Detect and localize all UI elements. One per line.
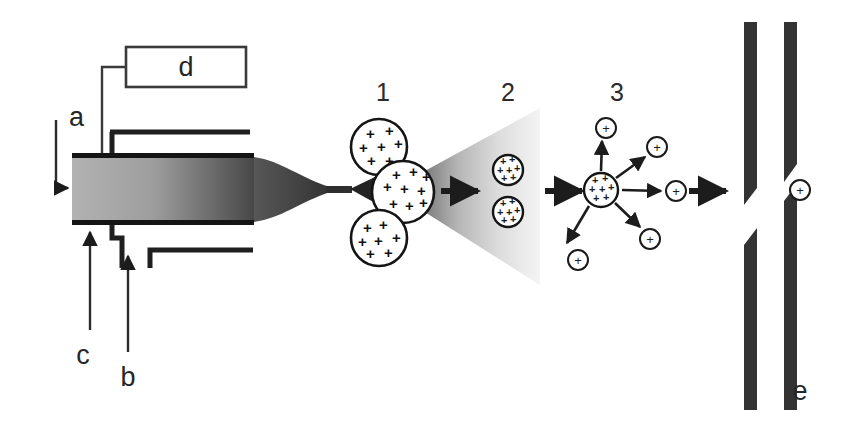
skimmer-electrodes: e: [744, 22, 808, 410]
esi-diagram: d a c b: [0, 0, 845, 431]
transmitted-ion: +: [790, 180, 810, 200]
capillary-body: [72, 157, 254, 221]
svg-text:+: +: [400, 180, 409, 197]
label-e: e: [792, 376, 807, 406]
svg-text:+: +: [653, 140, 661, 155]
fission-arrow-downleft: [567, 206, 589, 243]
power-supply-unit[interactable]: d: [126, 47, 246, 87]
gas-tube-lower-outer: [150, 250, 253, 268]
fission-arrow-up: [601, 141, 602, 171]
label-d: d: [178, 52, 193, 82]
label-c: c: [76, 340, 90, 370]
svg-text:+: +: [383, 178, 392, 195]
capillary-wall-top: [72, 153, 254, 158]
svg-text:+: +: [394, 135, 403, 152]
label-b: b: [120, 362, 135, 392]
svg-text:+: +: [646, 232, 654, 247]
gas-tube-lower-inner: [112, 222, 122, 268]
plate-upper-left: [744, 22, 757, 205]
svg-text:+: +: [419, 194, 428, 211]
svg-text:+: +: [367, 152, 376, 169]
svg-text:+: +: [603, 191, 609, 203]
capillary-neck: [326, 186, 352, 193]
shrinking-droplet: + + + + + + +: [493, 153, 523, 185]
svg-text:+: +: [374, 232, 383, 249]
svg-text:+: +: [672, 184, 680, 199]
capillary-wall-bottom: [72, 220, 254, 225]
fission-arrow-downright: [615, 203, 640, 227]
svg-text:+: +: [510, 171, 516, 183]
plate-upper-right: [784, 22, 797, 182]
svg-text:+: +: [409, 163, 418, 180]
stage-number-1: 1: [376, 78, 390, 106]
gas-phase-ion: +: [568, 250, 588, 270]
charged-droplet: + + + + + + +: [351, 210, 407, 266]
svg-text:+: +: [379, 216, 388, 233]
gas-phase-ion: +: [647, 137, 667, 157]
svg-text:+: +: [574, 253, 582, 268]
svg-text:+: +: [602, 121, 610, 136]
label-a: a: [69, 102, 85, 132]
capillary-taper: [254, 157, 330, 222]
fission-arrow-right: [622, 190, 661, 191]
parent-droplet: + + + + + + +: [584, 172, 618, 207]
svg-text:+: +: [392, 229, 401, 246]
inlet-b: b: [120, 256, 135, 392]
svg-text:+: +: [405, 197, 414, 214]
fission-arrow-upright: [616, 157, 645, 178]
stage3-group: + + + + + + + + + +: [567, 118, 686, 270]
gas-phase-ion: +: [596, 118, 616, 138]
gas-phase-ion: +: [666, 181, 686, 201]
plate-lower-left: [744, 228, 757, 410]
svg-text:+: +: [389, 195, 398, 212]
esi-schematic-canvas: d a c b: [0, 0, 845, 431]
inlet-c: c: [76, 232, 90, 370]
svg-text:+: +: [366, 245, 375, 262]
svg-text:+: +: [796, 183, 804, 198]
stage-number-3: 3: [610, 78, 624, 106]
svg-text:+: +: [501, 214, 507, 226]
arrow-a: [56, 120, 68, 188]
gas-phase-ion: +: [640, 229, 660, 249]
shrinking-droplet: + + + + + + +: [493, 195, 523, 227]
stage-number-2: 2: [501, 78, 515, 106]
svg-text:+: +: [501, 172, 507, 184]
svg-text:+: +: [384, 244, 393, 261]
svg-text:+: +: [510, 213, 516, 225]
svg-text:+: +: [385, 122, 394, 139]
svg-text:+: +: [593, 192, 599, 204]
